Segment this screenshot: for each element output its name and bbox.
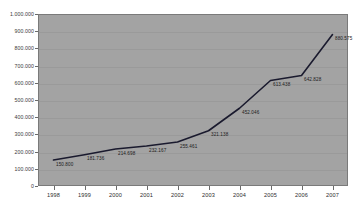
data-point-label: 642.828 (304, 77, 321, 82)
series-polyline (54, 35, 333, 161)
y-axis-tick-label: 100.000 (0, 166, 34, 172)
y-axis-tick-label: 600.000 (0, 80, 34, 86)
x-axis-tick-mark (147, 186, 148, 190)
x-axis-tick-mark (209, 186, 210, 190)
x-axis-tick-mark (54, 186, 55, 190)
x-axis-tick-label: 2003 (194, 192, 224, 198)
data-point-label: 150.800 (56, 162, 73, 167)
x-axis-tick-label: 1998 (39, 192, 69, 198)
x-axis-tick-label: 2007 (318, 192, 348, 198)
data-point-label: 321.138 (211, 132, 228, 137)
data-point-label: 232.167 (149, 148, 166, 153)
x-axis-tick-mark (302, 186, 303, 190)
y-axis-tick-label: 500.000 (0, 97, 34, 103)
data-point-label: 880.575 (335, 36, 352, 41)
x-axis-tick-mark (85, 186, 86, 190)
y-axis-tick-label: 400.000 (0, 114, 34, 120)
y-axis-tick-label: 200.000 (0, 149, 34, 155)
x-axis-tick-mark (116, 186, 117, 190)
x-axis-tick-label: 2004 (225, 192, 255, 198)
y-axis-tick-label: 1.000.000 (0, 11, 34, 17)
chart-container: 0100.000200.000300.000400.000500.000600.… (0, 0, 358, 214)
data-point-label: 452.046 (242, 110, 259, 115)
chart-title-sliver (120, 0, 240, 7)
y-axis-tick-label: 800.000 (0, 45, 34, 51)
x-axis-tick-label: 2000 (101, 192, 131, 198)
data-point-label: 214.698 (118, 151, 135, 156)
x-axis-tick-mark (271, 186, 272, 190)
x-axis-tick-mark (333, 186, 334, 190)
x-axis-tick-label: 2001 (132, 192, 162, 198)
y-axis-tick-label: 300.000 (0, 131, 34, 137)
x-axis-tick-label: 1999 (70, 192, 100, 198)
data-point-label: 613.438 (273, 82, 290, 87)
y-axis-tick-mark (35, 186, 38, 187)
y-axis-tick-label: 0 (0, 183, 34, 189)
x-axis-tick-mark (178, 186, 179, 190)
data-point-label: 181.736 (87, 156, 104, 161)
y-axis-tick-label: 900.000 (0, 28, 34, 34)
series-line (38, 14, 348, 186)
y-axis-tick-label: 700.000 (0, 63, 34, 69)
x-axis-tick-mark (240, 186, 241, 190)
x-axis-tick-label: 2002 (163, 192, 193, 198)
x-axis-tick-label: 2005 (256, 192, 286, 198)
data-point-label: 255.461 (180, 144, 197, 149)
x-axis-tick-label: 2006 (287, 192, 317, 198)
